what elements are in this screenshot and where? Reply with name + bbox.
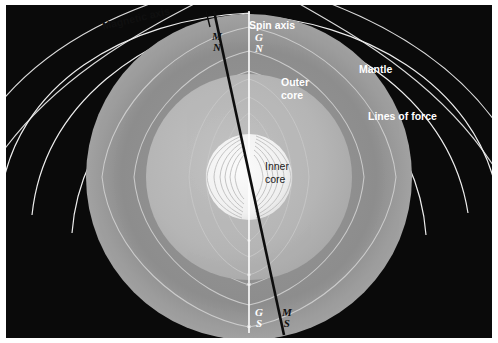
diagram-canvas: Magnetic axis M N Spin axis G N G S M S … bbox=[6, 5, 492, 338]
earth-field-svg bbox=[6, 5, 492, 338]
figure-root: Magnetic axis M N Spin axis G N G S M S … bbox=[0, 0, 498, 343]
